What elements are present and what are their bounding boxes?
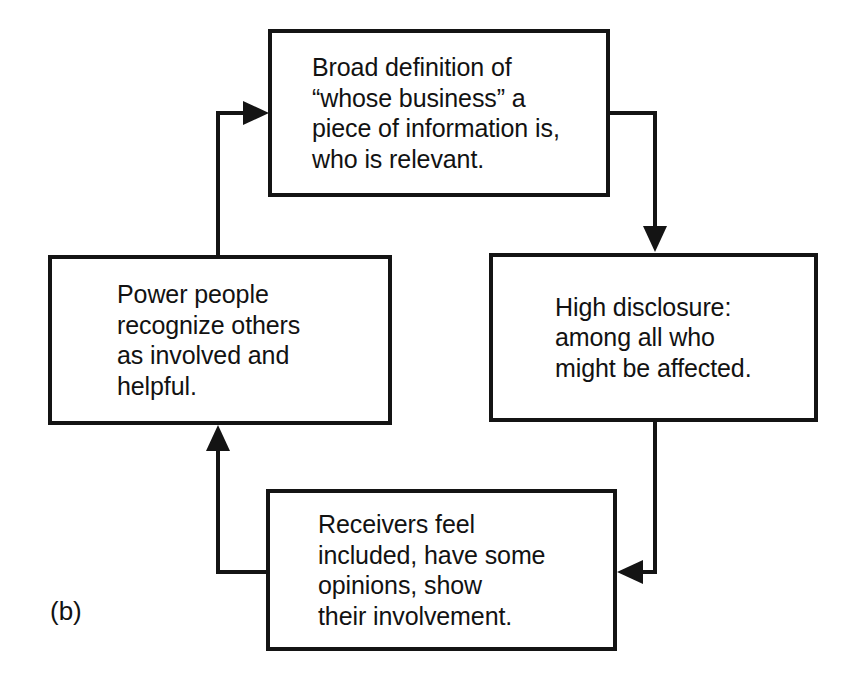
node-high-disclosure: High disclosure: among all who might be … bbox=[489, 253, 818, 422]
arrowhead-up-icon bbox=[206, 425, 230, 451]
figure-label: (b) bbox=[50, 598, 82, 624]
connector-right-to-bottom bbox=[617, 422, 655, 584]
arrowhead-down-icon bbox=[643, 226, 667, 252]
connector-bottom-to-left bbox=[206, 425, 266, 572]
node-broad-definition: Broad definition of “whose business” a p… bbox=[268, 29, 610, 197]
arrowhead-left-icon bbox=[617, 560, 643, 584]
node-power-people-recognize: Power people recognize others as involve… bbox=[48, 255, 392, 425]
node-power-people-recognize-text: Power people recognize others as involve… bbox=[117, 279, 300, 401]
arrowhead-right-icon bbox=[243, 101, 269, 125]
node-receivers-feel-included: Receivers feel included, have some opini… bbox=[266, 489, 617, 651]
connector-left-to-top bbox=[218, 101, 269, 255]
connector-top-to-right bbox=[610, 113, 667, 252]
node-high-disclosure-text: High disclosure: among all who might be … bbox=[555, 292, 751, 384]
node-broad-definition-text: Broad definition of “whose business” a p… bbox=[312, 52, 560, 174]
cycle-diagram-figure: Broad definition of “whose business” a p… bbox=[0, 0, 860, 692]
node-receivers-feel-included-text: Receivers feel included, have some opini… bbox=[318, 509, 545, 631]
